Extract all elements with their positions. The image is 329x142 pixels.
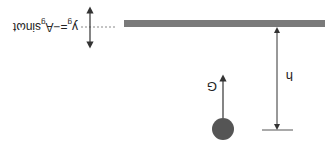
force-label: G: [207, 79, 217, 94]
ground-motion-equation: yg=−Agsinωt: [12, 18, 78, 34]
height-label: h: [286, 69, 293, 84]
ball: [212, 118, 234, 140]
diagram-svg: yg=−Agsinωt h G: [0, 0, 329, 142]
support-bar: [124, 20, 325, 27]
diagram: yg=−Agsinωt h G: [0, 0, 329, 142]
